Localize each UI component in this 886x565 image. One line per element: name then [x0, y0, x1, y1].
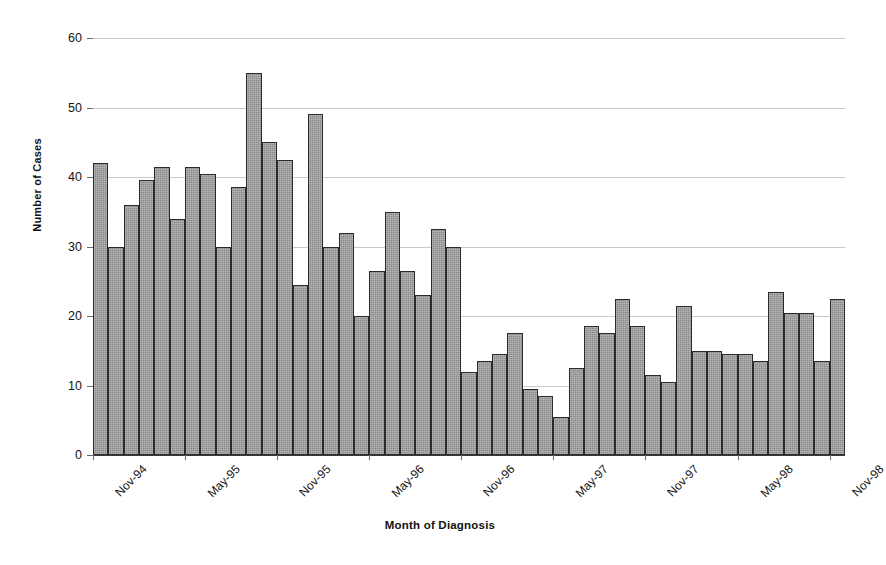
bar	[246, 73, 261, 455]
bar	[369, 271, 384, 455]
bar	[154, 167, 169, 455]
bar	[676, 306, 691, 455]
bar	[461, 372, 476, 455]
bar	[323, 247, 338, 456]
y-tick-label: 10	[68, 379, 82, 393]
bar	[753, 361, 768, 455]
bar	[523, 389, 538, 455]
bar	[108, 247, 123, 456]
bar	[385, 212, 400, 455]
bar	[738, 354, 753, 455]
bar	[814, 361, 829, 455]
bar	[538, 396, 553, 455]
x-tick-label: Nov-97	[665, 462, 702, 499]
bar	[477, 361, 492, 455]
bar	[584, 326, 599, 455]
x-axis-title: Month of Diagnosis	[0, 519, 880, 531]
y-tick-label: 0	[75, 448, 82, 462]
bar	[799, 313, 814, 455]
bar	[661, 382, 676, 455]
bar	[615, 299, 630, 455]
bar	[569, 368, 584, 455]
bar	[354, 316, 369, 455]
bar	[262, 142, 277, 455]
bar	[446, 247, 461, 456]
bar	[599, 333, 614, 455]
x-tick-label: May-98	[757, 462, 795, 500]
x-axis-tick-labels: Nov-94May-95Nov-95May-96Nov-96May-97Nov-…	[93, 462, 845, 522]
bar	[645, 375, 660, 455]
y-tick-label: 60	[68, 31, 82, 45]
x-tick-mark	[553, 455, 554, 460]
bar	[784, 313, 799, 455]
bar	[768, 292, 783, 455]
x-tick-label: Nov-95	[296, 462, 333, 499]
x-tick-mark	[369, 455, 370, 460]
bar	[707, 351, 722, 455]
x-tick-label: Nov-96	[481, 462, 518, 499]
bar	[170, 219, 185, 455]
bar	[492, 354, 507, 455]
bar	[185, 167, 200, 455]
bar	[93, 163, 108, 455]
y-tick-label: 20	[68, 309, 82, 323]
bar	[231, 187, 246, 455]
bar	[507, 333, 522, 455]
bars-layer	[93, 38, 845, 455]
x-tick-label: Nov-94	[112, 462, 149, 499]
bar	[400, 271, 415, 455]
x-tick-mark	[93, 455, 94, 460]
y-tick-label: 40	[68, 170, 82, 184]
bar	[722, 354, 737, 455]
y-tick-label: 50	[68, 101, 82, 115]
bar	[124, 205, 139, 455]
x-tick-label: May-95	[205, 462, 243, 500]
bar	[293, 285, 308, 455]
x-tick-mark	[277, 455, 278, 460]
bar	[431, 229, 446, 455]
y-axis-title: Number of Cases	[22, 100, 52, 270]
bar	[308, 114, 323, 455]
x-tick-mark	[645, 455, 646, 460]
x-tick-mark	[738, 455, 739, 460]
y-tick-label: 30	[68, 240, 82, 254]
x-tick-mark	[461, 455, 462, 460]
x-tick-label: Nov-98	[849, 462, 886, 499]
x-tick-mark	[185, 455, 186, 460]
x-tick-label: May-96	[389, 462, 427, 500]
x-tick-label: May-97	[573, 462, 611, 500]
bar	[339, 233, 354, 455]
bar	[630, 326, 645, 455]
bar	[200, 174, 215, 455]
bar	[216, 247, 231, 456]
bar	[830, 299, 845, 455]
bar	[553, 417, 568, 455]
bar	[277, 160, 292, 455]
bar	[415, 295, 430, 455]
plot-area: 0102030405060	[93, 38, 845, 455]
bar	[692, 351, 707, 455]
x-tick-mark	[830, 455, 831, 460]
bar	[139, 180, 154, 455]
